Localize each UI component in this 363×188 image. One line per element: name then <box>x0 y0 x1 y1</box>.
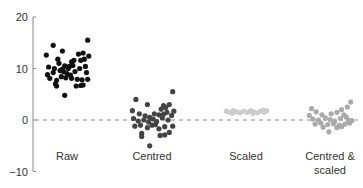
data-point <box>82 57 87 62</box>
data-point <box>47 76 52 81</box>
data-point <box>164 110 169 115</box>
data-point <box>166 117 171 122</box>
data-point <box>167 130 172 135</box>
data-point <box>347 121 352 126</box>
data-point <box>51 43 56 48</box>
data-point <box>46 64 51 69</box>
data-point <box>139 134 144 139</box>
data-point <box>72 69 77 74</box>
data-point <box>163 105 168 110</box>
y-tick-label: 10 <box>16 63 28 75</box>
data-point <box>130 108 135 113</box>
category-label: scaled <box>314 164 346 176</box>
chart: −1001020 RawCentredScaledCentred &scaled <box>0 0 363 188</box>
data-point <box>51 70 56 75</box>
data-point <box>63 75 68 80</box>
data-point <box>170 124 175 129</box>
data-point <box>145 125 150 130</box>
category-label: Centred <box>132 150 171 162</box>
data-point <box>70 63 75 68</box>
data-point <box>69 76 74 81</box>
data-point <box>56 61 61 66</box>
data-point <box>331 121 336 126</box>
data-point <box>44 53 49 58</box>
data-point <box>309 106 314 111</box>
data-point <box>338 116 343 121</box>
data-point <box>86 54 91 59</box>
data-point <box>146 120 151 125</box>
data-point <box>156 126 161 131</box>
data-point <box>348 99 353 104</box>
category-labels: RawCentredScaledCentred &scaled <box>56 150 355 176</box>
data-point <box>71 58 76 63</box>
data-point <box>137 111 142 116</box>
data-point <box>169 113 174 118</box>
data-point <box>153 122 158 127</box>
data-point <box>321 125 326 130</box>
data-point <box>159 107 164 112</box>
data-point <box>160 115 165 120</box>
data-point <box>60 48 65 53</box>
data-point <box>83 64 88 69</box>
data-point <box>60 66 65 71</box>
series-scaled <box>224 108 270 116</box>
data-point <box>79 77 84 82</box>
data-point <box>323 115 328 120</box>
series-centred-scaled <box>307 99 355 134</box>
y-tick-label: 20 <box>16 11 28 23</box>
data-point <box>344 114 349 119</box>
data-point <box>345 105 350 110</box>
data-point <box>141 117 146 122</box>
data-point <box>152 111 157 116</box>
data-point <box>138 123 143 128</box>
data-point <box>81 82 86 87</box>
data-point <box>250 111 255 116</box>
series-raw <box>44 38 92 98</box>
y-axis: −1001020 <box>9 11 36 178</box>
data-point <box>74 83 79 88</box>
y-tick-label: 0 <box>22 114 28 126</box>
data-point <box>133 97 138 102</box>
data-point <box>85 38 90 43</box>
data-point <box>84 70 89 75</box>
data-point <box>145 102 150 107</box>
data-point <box>54 83 59 88</box>
data-point <box>313 122 318 127</box>
category-label: Centred & <box>305 150 355 162</box>
data-point <box>77 66 82 71</box>
data-point <box>76 52 81 57</box>
data-point <box>334 125 339 130</box>
data-point <box>62 93 67 98</box>
data-point <box>162 124 167 129</box>
data-point <box>59 74 64 79</box>
series-centred <box>130 89 177 148</box>
data-point <box>132 124 137 129</box>
data-points <box>44 38 355 149</box>
data-point <box>170 89 175 94</box>
category-label: Raw <box>56 150 78 162</box>
category-label: Scaled <box>229 150 263 162</box>
data-point <box>131 116 136 121</box>
data-point <box>261 108 266 113</box>
data-point <box>162 132 167 137</box>
data-point <box>325 122 330 127</box>
data-point <box>81 50 86 55</box>
data-point <box>339 107 344 112</box>
data-point <box>85 77 90 82</box>
data-point <box>310 116 315 121</box>
data-point <box>230 111 235 116</box>
data-point <box>329 111 334 116</box>
data-point <box>334 110 339 115</box>
data-point <box>339 124 344 129</box>
data-point <box>327 117 332 122</box>
data-point <box>326 129 331 134</box>
data-point <box>147 143 152 148</box>
data-point <box>158 133 163 138</box>
y-tick-label: −10 <box>9 166 28 178</box>
data-point <box>75 77 80 82</box>
data-point <box>314 109 319 114</box>
